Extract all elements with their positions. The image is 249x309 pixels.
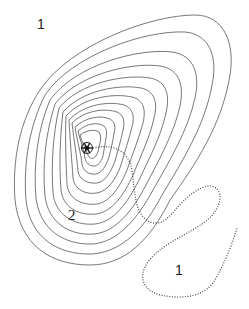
contour-line — [35, 51, 197, 244]
contour-line — [60, 87, 156, 214]
snowflake-icon — [81, 143, 93, 154]
contour-line — [52, 77, 167, 224]
contour-line — [72, 110, 124, 183]
label-bottom-right: 1 — [175, 263, 183, 277]
label-top-left: 1 — [37, 17, 45, 31]
contour-lines — [14, 15, 231, 265]
contour-svg — [0, 0, 249, 309]
contour-line — [44, 65, 181, 234]
label-inner: 2 — [68, 208, 76, 223]
contour-line — [14, 15, 231, 265]
contour-diagram: 1 2 1 — [0, 0, 249, 309]
